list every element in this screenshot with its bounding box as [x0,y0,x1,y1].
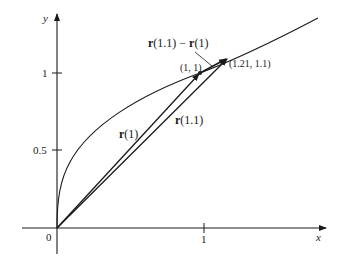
origin-label: 0 [46,231,52,243]
label-r1: r(1) [119,127,138,141]
vector-difference-diagram: y x 0 1 1 0.5 (1, 1) (1.21, 1.1) r(1) r(… [0,0,339,262]
label-difference: r(1.1) − r(1) [148,36,208,50]
y-tick-label-0.5: 0.5 [33,144,47,156]
point-label-1.21-1.1: (1.21, 1.1) [229,58,271,70]
x-tick-label-1: 1 [201,233,207,245]
vector-r1 [57,74,199,228]
point-label-1-1: (1, 1) [180,62,202,74]
y-tick-label-1: 1 [42,67,48,79]
vector-difference [200,59,226,73]
label-r1.1: r(1.1) [175,113,203,127]
x-axis-label: x [315,231,321,243]
y-axis-label: y [42,12,48,24]
